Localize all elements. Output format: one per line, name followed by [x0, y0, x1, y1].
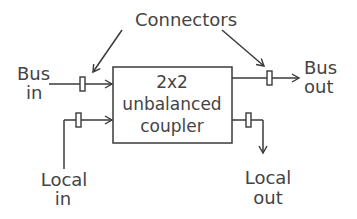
local-out-connector — [246, 113, 251, 127]
local-in-connector — [76, 113, 81, 127]
local-out-label-line2: out — [253, 187, 282, 208]
box-label-line1: 2x2 — [156, 72, 188, 92]
box-label-line2: unbalanced — [122, 94, 221, 114]
coupler-diagram: Connectors 2x2 unbalanced coupler Bus in… — [0, 0, 357, 219]
pointer-arrow-left — [93, 30, 122, 72]
bus-out-connector — [267, 71, 272, 85]
bus-out-label-line2: out — [304, 76, 333, 97]
pointer-arrow-right — [222, 30, 264, 66]
box-label-line3: coupler — [140, 116, 203, 136]
bus-in-connector — [80, 77, 85, 91]
bus-in-label-line1: Bus — [17, 63, 50, 84]
bus-out-label-line1: Bus — [304, 57, 337, 78]
bus-in-label-line2: in — [26, 82, 42, 103]
local-out-label-line1: Local — [245, 167, 292, 188]
local-in-label-line2: in — [55, 188, 71, 209]
connectors-label: Connectors — [135, 9, 237, 30]
local-in-label-line1: Local — [41, 169, 88, 190]
